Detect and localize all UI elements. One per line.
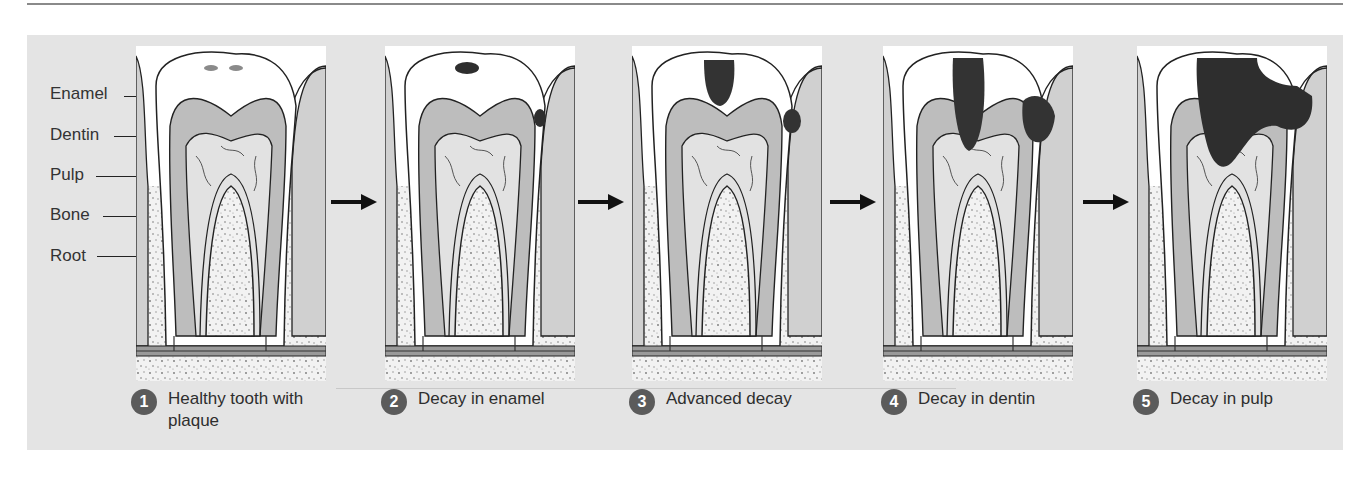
right-arrow-icon [331, 192, 377, 212]
step-number-badge: 4 [881, 389, 907, 415]
stage-caption-2: 2 Decay in enamel [381, 388, 545, 415]
step-number-badge: 5 [1133, 389, 1159, 415]
stage-caption-5: 5 Decay in pulp [1133, 388, 1273, 415]
tooth-stage-1 [136, 46, 326, 381]
caption-text: Decay in dentin [918, 388, 1035, 410]
step-number-badge: 3 [629, 389, 655, 415]
right-arrow-icon [1083, 192, 1129, 212]
step-number-badge: 2 [381, 389, 407, 415]
stage-caption-4: 4 Decay in dentin [881, 388, 1035, 415]
tooth-stage-5 [1137, 46, 1327, 381]
tooth-stage-3 [632, 46, 822, 381]
stage-caption-3: 3 Advanced decay [629, 388, 792, 415]
caption-text: Healthy tooth with [168, 388, 303, 410]
caption-text: Advanced decay [666, 388, 792, 410]
caption-text: Decay in pulp [1170, 388, 1273, 410]
caption-text: Decay in enamel [418, 388, 545, 410]
tooth-stage-4 [883, 46, 1073, 381]
stage-caption-1: 1 Healthy tooth with plaque [131, 388, 303, 432]
right-arrow-icon [578, 192, 624, 212]
tooth-stage-2 [385, 46, 575, 381]
step-number-badge: 1 [131, 389, 157, 415]
right-arrow-icon [830, 192, 876, 212]
caption-text-line2: plaque [168, 410, 303, 432]
